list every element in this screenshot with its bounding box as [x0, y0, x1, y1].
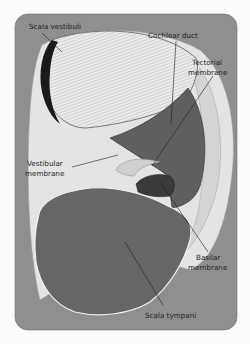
label-cochlear-duct: Cochlear duct [148, 31, 198, 40]
label-basilar-line1: Basilar [196, 253, 220, 262]
cochlea-cross-section-diagram: Scala vestibuli Cochlear duct Tectorial … [0, 0, 250, 344]
label-scala-vestibuli: Scala vestibuli [29, 22, 81, 31]
label-vestibular-line2: membrane [25, 169, 65, 178]
label-tectorial-line1: Tectorial [191, 58, 222, 67]
label-vestibular-line1: Vestibular [27, 159, 63, 168]
label-scala-tympani: Scala tympani [145, 311, 196, 320]
label-tectorial-line2: membrane [188, 68, 228, 77]
label-basilar-line2: membrane [188, 263, 228, 272]
